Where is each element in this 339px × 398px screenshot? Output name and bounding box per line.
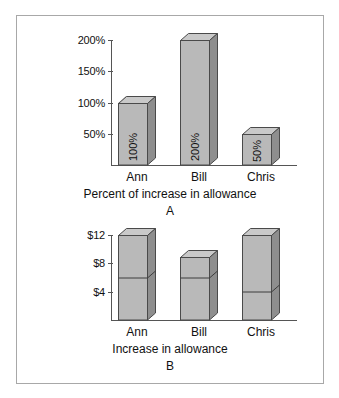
panel-a-tick-200 xyxy=(108,40,113,41)
panel-b-category-bill: Bill xyxy=(167,325,231,339)
panel-a-ytick-label-200: 200% xyxy=(57,34,105,46)
panel-a-bar-ann: 100% xyxy=(118,96,156,166)
panel-b-bar-bill xyxy=(180,250,218,321)
panel-a-tick-50 xyxy=(108,134,113,135)
panel-a-ytick-label-50: 50% xyxy=(57,128,105,140)
panel-a-caption: Percent of increase in allowance xyxy=(17,187,323,201)
panel-b-category-chris: Chris xyxy=(229,325,293,339)
panel-b-category-ann: Ann xyxy=(105,325,169,339)
panel-b-ytick-label-12: $12 xyxy=(57,229,105,241)
bar-b-ann-3d xyxy=(118,228,156,321)
panel-a-bar-ann-value-label: 100% xyxy=(127,129,139,165)
panel-b-caption: Increase in allowance xyxy=(17,342,323,356)
panel-b-y-axis xyxy=(111,235,112,320)
panel-a-category-bill: Bill xyxy=(167,170,231,184)
panel-b-tick-8 xyxy=(108,263,113,264)
panel-b-bar-ann xyxy=(118,228,156,321)
panel-a-tick-100 xyxy=(108,103,113,104)
panel-a-tick-150 xyxy=(108,71,113,72)
panel-b-ytick-label-4: $4 xyxy=(57,286,105,298)
panel-a-bar-chris-value-label: 50% xyxy=(251,132,263,170)
figure-frame: 200% 150% 100% 50% 100% 200% xyxy=(16,15,324,384)
panel-b-ytick-label-8: $8 xyxy=(57,257,105,269)
panel-a-ytick-label-150: 150% xyxy=(57,65,105,77)
bar-b-chris-3d xyxy=(242,228,280,321)
panel-a-bar-bill-value-label: 200% xyxy=(189,129,201,165)
panel-a-letter: A xyxy=(17,204,323,218)
panel-a-bar-chris: 50% xyxy=(242,127,280,166)
panel-a-category-chris: Chris xyxy=(229,170,293,184)
panel-a-ytick-label-100: 100% xyxy=(57,97,105,109)
panel-b-tick-12 xyxy=(108,235,113,236)
panel-b-tick-4 xyxy=(108,292,113,293)
panel-b-bar-chris xyxy=(242,228,280,321)
bar-b-bill-3d xyxy=(180,250,218,321)
panel-a-bar-bill: 200% xyxy=(180,33,218,166)
panel-a-category-ann: Ann xyxy=(105,170,169,184)
panel-b-letter: B xyxy=(17,359,323,373)
